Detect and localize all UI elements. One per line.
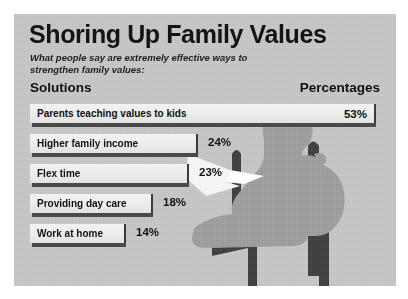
infographic-poster: Shoring Up Family Values What people say…	[14, 14, 396, 286]
bar-value-label: 53%	[344, 108, 374, 120]
bar: Work at home	[30, 224, 126, 243]
bar-value-label: 14%	[136, 226, 159, 238]
bar-label: Higher family income	[30, 138, 138, 149]
bar-label: Flex time	[30, 168, 80, 179]
bar: Parents teaching values to kids53%	[30, 104, 376, 123]
bar: Higher family income	[30, 134, 198, 153]
bar-value-label: 24%	[208, 136, 231, 148]
bar-value-label: 18%	[163, 196, 186, 208]
bar-label: Parents teaching values to kids	[30, 108, 187, 119]
column-headers: Solutions Percentages	[30, 80, 380, 95]
page-title: Shoring Up Family Values	[29, 20, 326, 49]
bar-row: Providing day care18%	[30, 194, 382, 224]
bar-value-label: 23%	[199, 166, 222, 178]
bar: Flex time	[30, 164, 189, 183]
bar-label: Work at home	[30, 228, 103, 239]
bar: Providing day care	[30, 194, 153, 213]
column-header-percentages: Percentages	[300, 80, 380, 95]
column-header-solutions: Solutions	[30, 80, 92, 95]
bar-label: Providing day care	[30, 198, 126, 209]
page-subtitle: What people say are extremely effective …	[30, 52, 280, 75]
bar-row: Parents teaching values to kids53%	[30, 104, 382, 134]
bar-row: Flex time23%	[30, 164, 382, 194]
bar-chart: Parents teaching values to kids53%Higher…	[30, 104, 382, 254]
bar-row: Higher family income24%	[30, 134, 382, 164]
bar-row: Work at home14%	[30, 224, 382, 254]
